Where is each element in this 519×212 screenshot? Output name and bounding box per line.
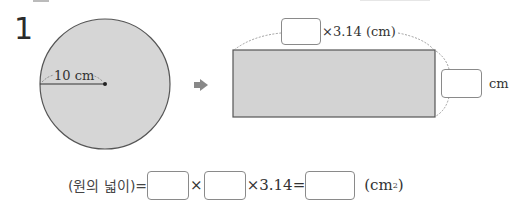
width-brace-right [398,33,434,50]
formula-answer-box-3[interactable] [305,171,355,200]
area-formula: (원의 넓이)= × ×3.14= (cm2) [68,170,404,200]
width-brace-left [234,33,281,50]
unit-open: (cm [364,176,392,194]
formula-label: (원의 넓이)= [68,175,147,195]
rectangle-shape [233,50,435,117]
width-suffix-label: ×3.14 (cm) [322,25,396,38]
radius-label: 10 cm [54,69,94,82]
right-arrow-icon [194,79,208,91]
times-sign: × [190,176,203,194]
unit-close: ) [398,176,404,194]
height-brace-top [436,51,449,69]
center-dot [103,82,107,86]
height-suffix-label: cm [489,77,509,90]
formula-answer-box-2[interactable] [204,171,246,200]
formula-answer-box-1[interactable] [147,171,189,200]
width-answer-box[interactable] [281,18,321,45]
height-brace-bottom [436,97,449,116]
height-answer-box[interactable] [441,69,482,98]
times-pi-equals: ×3.14= [247,176,306,194]
